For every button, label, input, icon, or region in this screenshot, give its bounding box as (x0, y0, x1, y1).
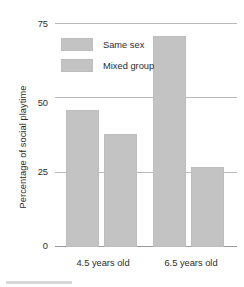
y-tick-label-0: 0 (8, 241, 48, 251)
bar-mixed-group-4-5-years[interactable] (104, 134, 137, 247)
bar-same-sex-6-5-years[interactable] (153, 36, 186, 247)
legend-item-mixed-group[interactable]: Mixed group (61, 59, 154, 72)
y-tick-label-50: 50 (8, 98, 48, 108)
bar-same-sex-4-5-years[interactable] (66, 110, 99, 247)
bottom-edge-artifact (6, 281, 72, 284)
y-tick-label-75: 75 (8, 19, 48, 29)
bar-chart: Percentage of social playtime 75 50 25 0… (0, 0, 244, 287)
legend-swatch-mixed-group (61, 59, 93, 72)
bar-mixed-group-6-5-years[interactable] (191, 167, 224, 247)
x-axis-label-4-5-years: 4.5 years old (62, 258, 144, 268)
legend: Same sex Mixed group (61, 38, 154, 80)
gridline-50 (55, 97, 237, 98)
legend-swatch-same-sex (61, 38, 93, 51)
y-tick-label-25: 25 (8, 167, 48, 177)
x-axis-label-6-5-years: 6.5 years old (150, 258, 232, 268)
legend-label-mixed-group: Mixed group (103, 61, 154, 71)
legend-item-same-sex[interactable]: Same sex (61, 38, 154, 51)
gridline-75 (55, 23, 237, 24)
y-axis-title: Percentage of social playtime (18, 52, 28, 242)
legend-label-same-sex: Same sex (103, 40, 144, 50)
